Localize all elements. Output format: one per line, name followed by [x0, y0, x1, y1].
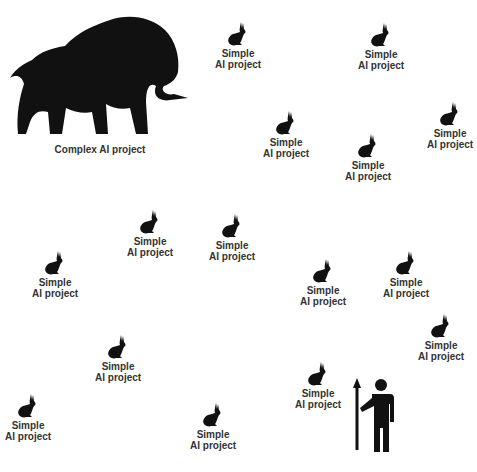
simple-ai-project: SimpleAI project — [383, 251, 429, 299]
simple-label: Simple — [390, 277, 423, 288]
complex-label: Complex AI project — [55, 144, 146, 155]
simple-label: Simple — [134, 236, 167, 247]
rabbit-icon — [107, 335, 129, 361]
simple-label: Simple — [270, 137, 303, 148]
rabbit-icon — [395, 251, 417, 277]
rabbit-icon — [227, 22, 249, 48]
simple-label: Simple — [307, 285, 340, 296]
hunter-with-spear-icon — [352, 376, 402, 456]
simple-label-line2: AI project — [358, 60, 404, 71]
simple-label-line2: AI project — [215, 59, 261, 70]
simple-label: Simple — [197, 429, 230, 440]
simple-label-line2: AI project — [345, 171, 391, 182]
simple-ai-project: SimpleAI project — [190, 403, 236, 451]
simple-ai-project: SimpleAI project — [215, 22, 261, 70]
simple-label: Simple — [425, 340, 458, 351]
simple-label-line2: AI project — [383, 288, 429, 299]
simple-label: Simple — [216, 240, 249, 251]
simple-label-line2: AI project — [127, 247, 173, 258]
simple-label: Simple — [12, 420, 45, 431]
simple-label-line2: AI project — [427, 139, 473, 150]
simple-label-line2: AI project — [95, 372, 141, 383]
simple-ai-project: SimpleAI project — [345, 134, 391, 182]
rabbit-icon — [439, 102, 461, 128]
simple-ai-project: SimpleAI project — [300, 259, 346, 307]
rabbit-icon — [139, 210, 161, 236]
simple-label-line2: AI project — [418, 351, 464, 362]
simple-ai-project: SimpleAI project — [263, 111, 309, 159]
simple-label-line2: AI project — [209, 251, 255, 262]
simple-ai-project: SimpleAI project — [418, 314, 464, 362]
simple-ai-project: SimpleAI project — [358, 23, 404, 71]
hunter — [352, 376, 402, 460]
simple-label: Simple — [222, 48, 255, 59]
simple-label-line2: AI project — [5, 431, 51, 442]
rabbit-icon — [357, 134, 379, 160]
rabbit-icon — [275, 111, 297, 137]
complex-ai-project: Complex AI project — [10, 12, 190, 155]
rabbit-icon — [307, 362, 329, 388]
rabbit-icon — [17, 394, 39, 420]
rabbit-icon — [370, 23, 392, 49]
simple-label: Simple — [352, 160, 385, 171]
simple-ai-project: SimpleAI project — [32, 251, 78, 299]
simple-ai-project: SimpleAI project — [209, 214, 255, 262]
simple-label: Simple — [302, 388, 335, 399]
rabbit-icon — [430, 314, 452, 340]
simple-label-line2: AI project — [300, 296, 346, 307]
simple-label: Simple — [434, 128, 467, 139]
rabbit-icon — [202, 403, 224, 429]
simple-label-line2: AI project — [295, 399, 341, 410]
elephant-icon — [10, 12, 190, 140]
rabbit-icon — [44, 251, 66, 277]
simple-label: Simple — [102, 361, 135, 372]
simple-label: Simple — [39, 277, 72, 288]
simple-label: Simple — [365, 49, 398, 60]
simple-label-line2: AI project — [263, 148, 309, 159]
simple-ai-project: SimpleAI project — [5, 394, 51, 442]
rabbit-icon — [221, 214, 243, 240]
simple-label-line2: AI project — [190, 440, 236, 451]
rabbit-icon — [312, 259, 334, 285]
simple-ai-project: SimpleAI project — [127, 210, 173, 258]
simple-ai-project: SimpleAI project — [95, 335, 141, 383]
simple-label-line2: AI project — [32, 288, 78, 299]
simple-ai-project: SimpleAI project — [295, 362, 341, 410]
simple-ai-project: SimpleAI project — [427, 102, 473, 150]
